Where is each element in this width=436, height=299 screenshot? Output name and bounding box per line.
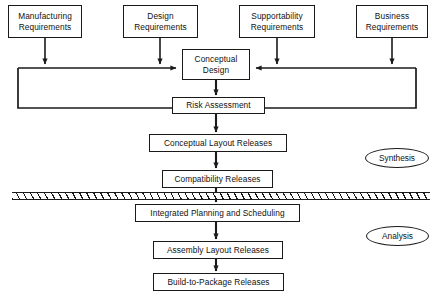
- node-label-line1: Compatibility Releases: [174, 174, 260, 185]
- node-label-line1: Risk Assessment: [186, 100, 250, 111]
- node-label-line2: Requirements: [19, 22, 72, 33]
- node-integrated-planning-and-scheduling[interactable]: Integrated Planning and Scheduling: [135, 204, 300, 222]
- node-label-line1: Supportability: [251, 11, 302, 22]
- node-design-requirements[interactable]: Design Requirements: [123, 5, 198, 38]
- node-label-line1: Build-to-Package Releases: [167, 277, 269, 288]
- node-label-line2: Requirements: [134, 22, 187, 33]
- phase-label-text: Analysis: [382, 231, 413, 241]
- node-label-line1: Conceptual: [195, 54, 238, 65]
- node-business-requirements[interactable]: Business Requirements: [356, 5, 428, 38]
- node-label-line1: Design: [147, 11, 173, 22]
- node-assembly-layout-releases[interactable]: Assembly Layout Releases: [153, 241, 283, 259]
- phase-label-analysis: Analysis: [366, 226, 429, 246]
- node-label-line1: Assembly Layout Releases: [167, 245, 269, 256]
- node-compatibility-releases[interactable]: Compatibility Releases: [162, 170, 273, 188]
- node-label-line2: Requirements: [366, 22, 419, 33]
- node-label-line1: Manufacturing: [18, 11, 72, 22]
- feedback-loop-path: [18, 68, 172, 108]
- phase-label-text: Synthesis: [379, 153, 415, 163]
- flowchart-diagram: Manufacturing Requirements Design Requir…: [0, 0, 436, 299]
- node-manufacturing-requirements[interactable]: Manufacturing Requirements: [8, 5, 82, 38]
- phase-label-synthesis: Synthesis: [365, 148, 429, 168]
- node-label-line2: Design: [203, 65, 229, 76]
- node-label-line1: Integrated Planning and Scheduling: [150, 208, 284, 219]
- node-conceptual-design[interactable]: Conceptual Design: [182, 49, 250, 80]
- node-conceptual-layout-releases[interactable]: Conceptual Layout Releases: [149, 134, 287, 152]
- synthesis-analysis-divider: [12, 192, 430, 200]
- node-label-line1: Conceptual Layout Releases: [164, 138, 272, 149]
- node-label-line1: Business: [375, 11, 409, 22]
- node-label-line2: Requirements: [251, 22, 304, 33]
- node-risk-assessment[interactable]: Risk Assessment: [172, 97, 265, 114]
- node-build-to-package-releases[interactable]: Build-to-Package Releases: [153, 273, 284, 291]
- node-supportability-requirements[interactable]: Supportability Requirements: [239, 5, 315, 38]
- feedback-loop-path-right: [265, 68, 416, 108]
